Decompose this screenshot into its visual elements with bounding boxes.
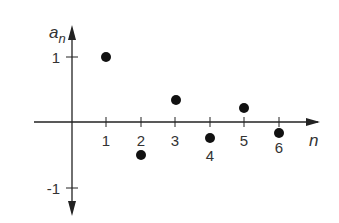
- y-axis-arrow-down-icon: [68, 201, 76, 216]
- point-n5: [239, 103, 249, 113]
- xtick-label-3: 3: [171, 132, 179, 149]
- x-axis-arrow-icon: [306, 118, 320, 126]
- xtick-label-2: 2: [137, 132, 145, 149]
- xtick-label-4: 4: [206, 147, 214, 164]
- point-n6: [274, 128, 284, 138]
- point-n3: [171, 95, 181, 105]
- xtick-label-1: 1: [102, 132, 110, 149]
- ytick-label-1: 1: [52, 49, 60, 66]
- xtick-label-6: 6: [275, 139, 283, 156]
- x-axis-label: n: [309, 131, 318, 150]
- point-n2: [136, 150, 146, 160]
- xtick-label-5: 5: [240, 132, 248, 149]
- y-axis-arrow-up-icon: [68, 25, 76, 40]
- sequence-plot: 1 -1 an n 1 2 3 4 5 6: [0, 0, 339, 223]
- ytick-label-neg1: -1: [47, 180, 60, 197]
- point-n4: [205, 133, 215, 143]
- y-axis-label: an: [49, 23, 66, 46]
- point-n1: [101, 52, 111, 62]
- data-points: [101, 52, 284, 160]
